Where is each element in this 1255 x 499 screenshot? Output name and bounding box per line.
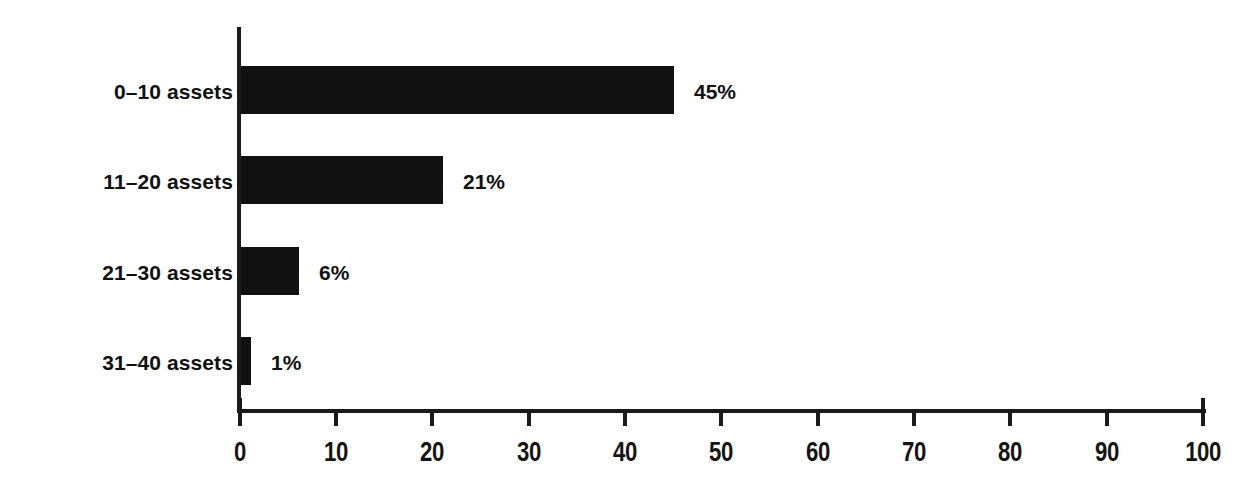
bar bbox=[241, 66, 674, 114]
x-axis-tick-80 bbox=[1008, 412, 1012, 426]
x-axis-tick-20 bbox=[430, 412, 434, 426]
category-label: 0–10 assets bbox=[114, 80, 233, 104]
x-axis-tick-label-60: 60 bbox=[785, 437, 851, 468]
bar-chart: 0 10 20 30 40 50 60 70 80 90 100 0–10 as… bbox=[0, 0, 1255, 499]
bar-value-label: 21% bbox=[463, 170, 505, 194]
x-axis-tick-label-30: 30 bbox=[496, 437, 562, 468]
category-label: 21–30 assets bbox=[102, 261, 233, 285]
category-label: 11–20 assets bbox=[103, 170, 233, 194]
x-axis-tick-70 bbox=[912, 412, 916, 426]
x-axis-tick-100 bbox=[1201, 398, 1205, 426]
x-axis-tick-label-0: 0 bbox=[207, 437, 273, 468]
x-axis-tick-50 bbox=[719, 412, 723, 426]
x-axis-tick-label-100: 100 bbox=[1170, 437, 1236, 468]
bar-value-label: 45% bbox=[694, 80, 736, 104]
x-axis-tick-60 bbox=[816, 412, 820, 426]
x-axis-tick-label-20: 20 bbox=[399, 437, 465, 468]
plot-area: 0 10 20 30 40 50 60 70 80 90 100 0–10 as… bbox=[0, 0, 1255, 499]
x-axis-tick-label-10: 10 bbox=[303, 437, 369, 468]
bar-value-label: 1% bbox=[271, 351, 301, 375]
x-axis-tick-label-90: 90 bbox=[1074, 437, 1140, 468]
category-label: 31–40 assets bbox=[102, 351, 233, 375]
x-axis-tick-30 bbox=[527, 412, 531, 426]
bar bbox=[241, 337, 251, 385]
x-axis-tick-0 bbox=[238, 398, 242, 426]
bar bbox=[241, 156, 443, 204]
x-axis-tick-40 bbox=[623, 412, 627, 426]
x-axis-tick-label-50: 50 bbox=[688, 437, 754, 468]
bar-value-label: 6% bbox=[319, 261, 349, 285]
x-axis-tick-label-80: 80 bbox=[977, 437, 1043, 468]
x-axis-tick-90 bbox=[1105, 412, 1109, 426]
bar bbox=[241, 247, 299, 295]
x-axis-tick-label-70: 70 bbox=[881, 437, 947, 468]
x-axis-tick-label-40: 40 bbox=[592, 437, 658, 468]
x-axis-tick-10 bbox=[334, 412, 338, 426]
